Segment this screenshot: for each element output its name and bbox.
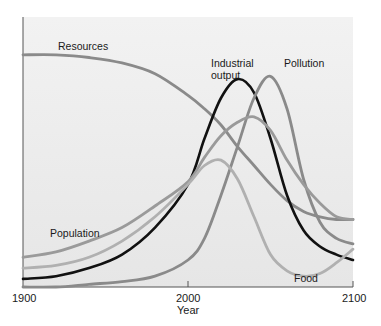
x-tick-label-2100: 2100 (342, 292, 366, 304)
label-pollution: Pollution (284, 57, 324, 69)
x-tick-label-1900: 1900 (12, 292, 36, 304)
x-axis-title: Year (177, 304, 200, 316)
label-food: Food (294, 272, 318, 284)
x-tick-label-2000: 2000 (176, 292, 200, 304)
label-industrial-output-2: output (211, 69, 240, 81)
label-resources: Resources (58, 40, 108, 52)
label-industrial-output-1: Industrial (211, 57, 254, 69)
chart: Resources Industrial output Pollution Po… (0, 0, 381, 326)
label-population: Population (50, 227, 100, 239)
